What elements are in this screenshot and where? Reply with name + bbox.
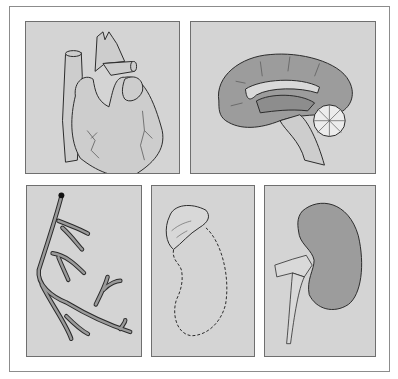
adrenal-gland-icon xyxy=(152,186,254,356)
panel-brain xyxy=(190,21,376,174)
blood-vessel-icon xyxy=(27,186,141,356)
heart-icon xyxy=(26,22,179,173)
panel-adrenal xyxy=(151,185,255,357)
kidney-icon xyxy=(265,186,375,356)
panel-heart xyxy=(25,21,180,174)
panel-vessel xyxy=(26,185,142,357)
brain-icon xyxy=(191,22,375,173)
panel-kidney xyxy=(264,185,376,357)
